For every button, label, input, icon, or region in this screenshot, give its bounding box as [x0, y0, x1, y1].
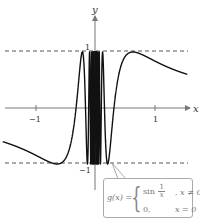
y-tick-label-neg1: −1: [79, 166, 91, 175]
brace-icon: {: [131, 181, 142, 215]
sin-label: sin: [143, 187, 155, 196]
case-1: sin 1 x: [143, 184, 166, 199]
fraction-denominator: x: [158, 192, 164, 199]
y-axis-label: y: [91, 4, 98, 15]
function-definition-box: g(x) = { sin 1 x , x ≠ 0 0, x = 0: [103, 178, 193, 218]
x-axis-label: x: [193, 103, 199, 114]
x-tick-label-neg1: −1: [29, 115, 41, 124]
y-tick-label-pos1: 1: [85, 43, 90, 52]
callout-pointer: [112, 163, 126, 179]
fraction: 1 x: [158, 184, 164, 199]
function-name: g(x) =: [107, 193, 132, 202]
case-2-condition: x = 0: [175, 205, 196, 214]
x-tick-label-pos1: 1: [153, 115, 158, 124]
case-2-value: 0,: [143, 205, 151, 214]
case-1-condition: , x ≠ 0: [175, 188, 200, 197]
